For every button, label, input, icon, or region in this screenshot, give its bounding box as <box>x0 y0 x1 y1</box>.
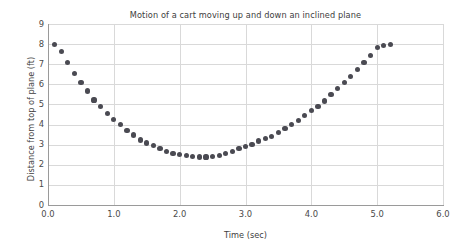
data-point <box>243 144 248 149</box>
x-axis-tick-label: 0.0 <box>31 209 65 219</box>
y-axis-tick-label: 9 <box>22 19 44 29</box>
data-point <box>381 43 386 48</box>
data-point <box>78 80 83 85</box>
x-axis-tick-labels: 0.01.02.03.04.05.06.0 <box>48 209 448 223</box>
y-axis-tick-label: 0 <box>22 200 44 210</box>
data-point <box>388 42 393 47</box>
data-point <box>124 128 129 133</box>
gridline-vertical <box>180 24 181 205</box>
data-point <box>197 154 202 159</box>
data-point <box>170 151 175 156</box>
data-point <box>328 92 333 97</box>
data-point <box>210 154 215 159</box>
data-point <box>164 149 169 154</box>
data-point <box>296 118 301 123</box>
data-point <box>355 67 360 72</box>
y-axis-tick-label: 4 <box>22 119 44 129</box>
data-point <box>151 143 156 148</box>
gridline-vertical <box>443 24 444 205</box>
gridline-vertical <box>246 24 247 205</box>
data-point <box>59 49 64 54</box>
y-axis-tick-label: 6 <box>22 79 44 89</box>
y-axis-tick-label: 1 <box>22 179 44 189</box>
data-point <box>236 146 241 151</box>
data-point <box>91 97 96 102</box>
data-point <box>138 137 143 142</box>
data-point <box>217 153 222 158</box>
data-point <box>98 104 103 109</box>
data-point <box>315 104 320 109</box>
x-axis-tick-label: 1.0 <box>97 209 131 219</box>
y-axis-tick-label: 7 <box>22 59 44 69</box>
y-axis-tick-labels: 0123456789 <box>20 24 44 205</box>
data-point <box>256 138 261 143</box>
data-point <box>361 60 366 65</box>
data-point <box>276 130 281 135</box>
data-point <box>190 154 195 159</box>
data-point <box>223 151 228 156</box>
x-axis-tick-label: 4.0 <box>294 209 328 219</box>
data-point <box>230 149 235 154</box>
x-axis-line <box>48 205 444 206</box>
x-axis-tick-label: 6.0 <box>426 209 460 219</box>
y-axis-tick-label: 8 <box>22 39 44 49</box>
data-point <box>263 136 268 141</box>
gridline-vertical <box>311 24 312 205</box>
data-point <box>269 134 274 139</box>
y-axis-line <box>48 24 49 206</box>
data-point <box>52 42 57 47</box>
data-point <box>348 74 353 79</box>
data-point <box>118 122 123 127</box>
gridline-vertical <box>114 24 115 205</box>
data-point <box>111 117 116 122</box>
data-point <box>289 122 294 127</box>
plot-area <box>48 24 443 205</box>
x-axis-tick-label: 3.0 <box>229 209 263 219</box>
data-point <box>157 146 162 151</box>
data-point <box>375 45 380 50</box>
data-point <box>177 152 182 157</box>
data-point <box>203 154 208 159</box>
data-point <box>105 111 110 116</box>
data-point <box>144 140 149 145</box>
x-axis-label: Time (sec) <box>48 230 443 240</box>
data-point <box>282 126 287 131</box>
y-axis-tick-label: 5 <box>22 99 44 109</box>
data-point <box>85 88 90 93</box>
x-axis-tick-label: 2.0 <box>163 209 197 219</box>
data-point <box>335 86 340 91</box>
data-point <box>322 98 327 103</box>
data-point <box>184 153 189 158</box>
data-point <box>302 113 307 118</box>
gridline-vertical <box>377 24 378 205</box>
x-axis-tick-label: 5.0 <box>360 209 394 219</box>
data-point <box>131 132 136 137</box>
y-axis-tick-label: 3 <box>22 139 44 149</box>
data-point <box>368 53 373 58</box>
chart-title: Motion of a cart moving up and down an i… <box>48 10 443 20</box>
chart-figure: Motion of a cart moving up and down an i… <box>0 0 463 248</box>
data-point <box>249 142 254 147</box>
data-point <box>309 108 314 113</box>
data-point <box>72 71 77 76</box>
y-axis-tick-label: 2 <box>22 159 44 169</box>
